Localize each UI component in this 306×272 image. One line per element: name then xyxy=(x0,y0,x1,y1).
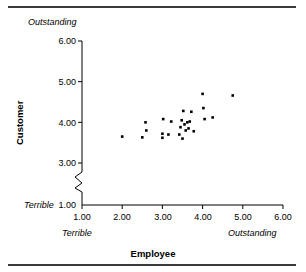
data-point xyxy=(201,93,204,96)
data-point xyxy=(182,110,185,113)
data-point xyxy=(211,116,214,119)
data-point xyxy=(161,136,164,139)
data-point xyxy=(183,123,186,126)
x-tick-label-6: 6.00 xyxy=(265,213,301,222)
x-tick-label-2: 2.00 xyxy=(104,213,140,222)
y-tick-label-4: 4.00 xyxy=(42,119,76,128)
data-point xyxy=(144,121,147,124)
y-axis-title: Customer xyxy=(14,101,25,145)
scatter-plot: Outstanding Terrible 6.00 5.00 4.00 3.00… xyxy=(0,0,306,272)
y-axis-high-label: Outstanding xyxy=(28,18,77,27)
y-tick-label-1: 1.00 xyxy=(42,201,76,210)
data-point xyxy=(121,135,124,138)
data-point xyxy=(145,129,148,132)
data-point xyxy=(178,133,181,136)
data-point xyxy=(170,120,173,123)
data-point xyxy=(161,132,164,135)
data-point xyxy=(186,121,189,124)
data-point xyxy=(202,107,205,110)
x-axis-title: Employee xyxy=(0,248,306,259)
x-tick-label-4: 4.00 xyxy=(185,213,221,222)
y-tick-label-3: 3.00 xyxy=(42,159,76,168)
data-point xyxy=(184,129,187,132)
x-tick-label-1: 1.00 xyxy=(64,213,100,222)
x-axis-high-label: Outstanding xyxy=(228,229,277,238)
data-point xyxy=(167,133,170,136)
x-tick-label-3: 3.00 xyxy=(145,213,181,222)
data-point xyxy=(179,126,182,129)
data-points-layer xyxy=(121,93,234,140)
data-point xyxy=(192,130,195,133)
data-point xyxy=(141,136,144,139)
data-point xyxy=(181,137,184,140)
figure-container: Outstanding Terrible 6.00 5.00 4.00 3.00… xyxy=(0,0,306,272)
y-tick-label-5: 5.00 xyxy=(42,78,76,87)
data-point xyxy=(187,127,190,130)
x-axis-low-label: Terrible xyxy=(62,229,92,238)
data-point xyxy=(162,118,165,121)
axes-layer xyxy=(75,41,283,209)
data-point xyxy=(188,120,191,123)
y-tick-label-6: 6.00 xyxy=(42,37,76,46)
data-point xyxy=(180,119,183,122)
x-tick-label-5: 5.00 xyxy=(225,213,261,222)
data-point xyxy=(203,118,206,121)
data-point xyxy=(190,110,193,113)
data-point xyxy=(231,94,234,97)
